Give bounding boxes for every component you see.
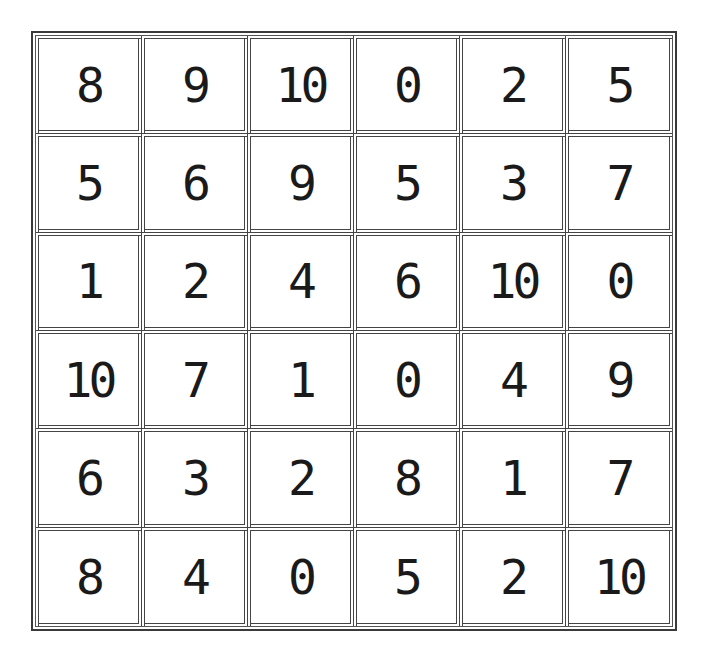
cell-number: 10 bbox=[276, 57, 326, 113]
cell-number: 2 bbox=[182, 253, 207, 309]
grid-cell-r6-c5[interactable]: 2 bbox=[460, 528, 566, 626]
cell-number: 10 bbox=[64, 352, 114, 408]
cell-number: 0 bbox=[288, 549, 313, 605]
grid-cell-r5-c6[interactable]: 7 bbox=[566, 429, 672, 527]
cell-number: 4 bbox=[500, 352, 525, 408]
grid-cell-r3-c4[interactable]: 6 bbox=[354, 233, 460, 331]
cell-number: 1 bbox=[500, 450, 525, 506]
grid-cell-r5-c5[interactable]: 1 bbox=[460, 429, 566, 527]
cell-number: 10 bbox=[488, 253, 538, 309]
cell-number: 3 bbox=[500, 155, 525, 211]
grid-cell-r1-c6[interactable]: 5 bbox=[566, 36, 672, 134]
cell-number: 6 bbox=[76, 450, 101, 506]
cell-number: 0 bbox=[394, 57, 419, 113]
grid-cell-r4-c6[interactable]: 9 bbox=[566, 331, 672, 429]
grid-cell-r3-c2[interactable]: 2 bbox=[142, 233, 248, 331]
cell-number: 2 bbox=[500, 549, 525, 605]
grid-cell-r4-c1[interactable]: 10 bbox=[36, 331, 142, 429]
cell-number: 4 bbox=[288, 253, 313, 309]
cell-number: 5 bbox=[394, 549, 419, 605]
cell-number: 5 bbox=[76, 155, 101, 211]
cell-number: 7 bbox=[607, 450, 632, 506]
cell-number: 9 bbox=[607, 352, 632, 408]
cell-number: 9 bbox=[182, 57, 207, 113]
grid-cell-r1-c3[interactable]: 10 bbox=[248, 36, 354, 134]
cell-number: 10 bbox=[594, 549, 644, 605]
grid-cell-r3-c5[interactable]: 10 bbox=[460, 233, 566, 331]
grid-cell-r1-c4[interactable]: 0 bbox=[354, 36, 460, 134]
grid-cell-r2-c1[interactable]: 5 bbox=[36, 134, 142, 232]
grid-cell-r5-c4[interactable]: 8 bbox=[354, 429, 460, 527]
cell-number: 1 bbox=[288, 352, 313, 408]
grid-cell-r4-c2[interactable]: 7 bbox=[142, 331, 248, 429]
grid-cell-r4-c5[interactable]: 4 bbox=[460, 331, 566, 429]
cell-number: 6 bbox=[394, 253, 419, 309]
cell-number: 8 bbox=[76, 549, 101, 605]
grid-cell-r6-c3[interactable]: 0 bbox=[248, 528, 354, 626]
cell-number: 5 bbox=[607, 57, 632, 113]
grid-cell-r2-c2[interactable]: 6 bbox=[142, 134, 248, 232]
grid-cell-r3-c6[interactable]: 0 bbox=[566, 233, 672, 331]
cell-number: 2 bbox=[500, 57, 525, 113]
cell-number: 4 bbox=[182, 549, 207, 605]
grid-cell-r1-c2[interactable]: 9 bbox=[142, 36, 248, 134]
grid-cell-r3-c3[interactable]: 4 bbox=[248, 233, 354, 331]
cell-number: 7 bbox=[607, 155, 632, 211]
cell-number: 1 bbox=[76, 253, 101, 309]
cell-number: 0 bbox=[394, 352, 419, 408]
grid-cell-r6-c2[interactable]: 4 bbox=[142, 528, 248, 626]
grid-cell-r2-c4[interactable]: 5 bbox=[354, 134, 460, 232]
cell-number: 7 bbox=[182, 352, 207, 408]
cell-number: 9 bbox=[288, 155, 313, 211]
grid-cell-r1-c5[interactable]: 2 bbox=[460, 36, 566, 134]
grid-cell-r2-c6[interactable]: 7 bbox=[566, 134, 672, 232]
cell-number: 3 bbox=[182, 450, 207, 506]
grid-cell-r1-c1[interactable]: 8 bbox=[36, 36, 142, 134]
grid-cell-r2-c5[interactable]: 3 bbox=[460, 134, 566, 232]
grid-cell-r5-c1[interactable]: 6 bbox=[36, 429, 142, 527]
cell-number: 5 bbox=[394, 155, 419, 211]
cell-number: 2 bbox=[288, 450, 313, 506]
grid-cell-r6-c1[interactable]: 8 bbox=[36, 528, 142, 626]
grid-cell-r6-c6[interactable]: 10 bbox=[566, 528, 672, 626]
cell-number: 8 bbox=[394, 450, 419, 506]
number-grid: 8910025569537124610010710496328178405210 bbox=[35, 35, 673, 627]
grid-cell-r3-c1[interactable]: 1 bbox=[36, 233, 142, 331]
cell-number: 0 bbox=[607, 253, 632, 309]
grid-cell-r4-c4[interactable]: 0 bbox=[354, 331, 460, 429]
number-grid-board: 8910025569537124610010710496328178405210 bbox=[31, 31, 677, 631]
grid-cell-r5-c3[interactable]: 2 bbox=[248, 429, 354, 527]
grid-cell-r2-c3[interactable]: 9 bbox=[248, 134, 354, 232]
grid-cell-r5-c2[interactable]: 3 bbox=[142, 429, 248, 527]
grid-cell-r4-c3[interactable]: 1 bbox=[248, 331, 354, 429]
cell-number: 6 bbox=[182, 155, 207, 211]
grid-cell-r6-c4[interactable]: 5 bbox=[354, 528, 460, 626]
cell-number: 8 bbox=[76, 57, 101, 113]
